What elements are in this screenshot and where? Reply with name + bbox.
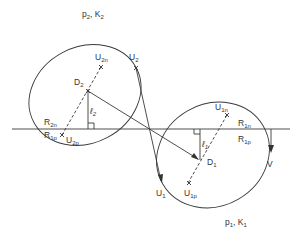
- right-angle-marker-2: [88, 123, 94, 129]
- marker-u2n: [99, 65, 103, 69]
- label-d2: D2: [74, 77, 84, 88]
- label-l2: ℓ2: [89, 106, 97, 117]
- label-r1p-left: R1p: [44, 130, 57, 141]
- label-p2-k2: p2, K2: [82, 9, 104, 20]
- label-l1: ℓ1: [201, 139, 208, 150]
- arrowhead-d1: [191, 153, 199, 160]
- label-r1n: R1n: [238, 118, 251, 129]
- right-angle-marker-1: [194, 129, 200, 134]
- label-d1: D1: [207, 157, 217, 168]
- label-v: V: [267, 159, 273, 169]
- label-u1: U1: [156, 188, 166, 199]
- marker-u2p: [60, 133, 64, 137]
- label-u2: U2: [129, 52, 139, 63]
- label-r2n: R2n: [44, 117, 57, 128]
- marker-u1n: [225, 113, 229, 117]
- label-u2p: U2p: [66, 135, 79, 146]
- label-u1n: U1n: [215, 102, 228, 113]
- ellipse-particle-1: [137, 82, 288, 228]
- label-r1p-right: R1p: [238, 134, 251, 145]
- diagram-canvas: p2, K2 U2n U2 D2 ℓ2 R2n R1p U2p U1n R1n …: [0, 0, 293, 234]
- label-p1-k1: p1, K1: [225, 217, 247, 228]
- line-u2-u1: [136, 68, 161, 181]
- label-u1p: U1p: [184, 188, 197, 199]
- v-arrowhead: [268, 145, 274, 153]
- label-u2n: U2n: [95, 52, 108, 63]
- arrowhead-u1: [158, 174, 163, 183]
- dashed-axis-2: [62, 67, 101, 135]
